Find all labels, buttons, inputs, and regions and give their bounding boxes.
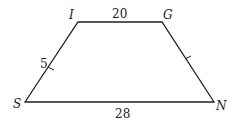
side-label-si: 5 — [40, 57, 48, 71]
vertex-label-i: I — [68, 8, 74, 22]
trapezoid-shape — [25, 22, 214, 102]
side-label-sn: 28 — [115, 107, 130, 121]
trapezoid-diagram: I G N S 20 28 5 — [0, 0, 239, 126]
tick-mark-gn — [185, 56, 191, 59]
vertex-label-n: N — [215, 99, 227, 113]
side-label-ig: 20 — [112, 7, 127, 21]
vertex-label-g: G — [163, 8, 173, 22]
tick-mark-si — [48, 67, 54, 70]
vertex-label-s: S — [13, 97, 21, 111]
